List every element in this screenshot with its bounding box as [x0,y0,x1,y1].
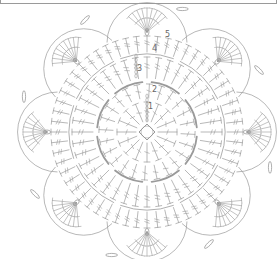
crochet-chart [0,0,277,259]
round-label-5: 5 [165,31,170,39]
round-label-2: 2 [152,86,157,94]
round-label-1: 1 [148,103,153,111]
round-label-4: 4 [152,45,157,53]
round-label-3: 3 [137,65,142,73]
